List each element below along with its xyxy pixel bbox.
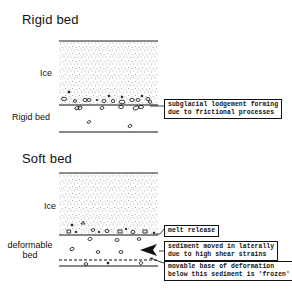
sediment-line-1: sediment moved in laterally [168, 243, 274, 251]
deformable-bed-label-line-1: deformable [6, 240, 54, 250]
deformable-bed-label-line-2: bed [6, 250, 54, 260]
rigid-ice-label: Ice [40, 68, 52, 78]
rigid-bed-label: Rigid bed [12, 112, 50, 122]
deformation-base-annotation-box: movable base of deformation below this s… [164, 261, 292, 281]
lateral-sediment-arrow-icon [140, 244, 157, 256]
deformable-bed-clasts-icon [69, 237, 143, 265]
sediment-annotation-box: sediment moved in laterally due to high … [164, 241, 278, 261]
melt-release-annotation-box: melt release [164, 225, 219, 237]
soft-ice-label: Ice [44, 201, 56, 211]
deformation-base-line-1: movable base of deformation [168, 263, 290, 271]
sediment-line-2: due to high shear strains [168, 251, 274, 259]
lodgement-annotation-box: subglacial lodgement forming due to fric… [164, 99, 282, 119]
lodgement-line-2: due to frictional processes [168, 109, 278, 117]
soft-ice-block [59, 173, 158, 235]
lodgement-line-1: subglacial lodgement forming [168, 101, 278, 109]
rigid-bed-clasts-icon [74, 105, 143, 128]
melt-release-line-1: melt release [168, 227, 215, 235]
deformation-base-line-2: below this sediment is 'frozen' [168, 271, 290, 279]
deformable-bed-label: deformable bed [6, 240, 54, 260]
